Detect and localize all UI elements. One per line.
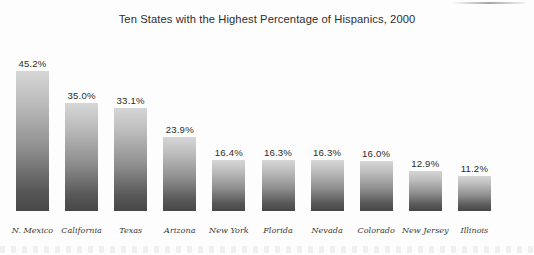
bar-rect[interactable] bbox=[16, 71, 49, 211]
chart-baseline bbox=[0, 211, 534, 212]
bar-rect[interactable] bbox=[360, 161, 393, 211]
bar-rect[interactable] bbox=[65, 103, 98, 212]
bar-value-label: 12.9% bbox=[401, 158, 450, 169]
bar-rect[interactable] bbox=[311, 160, 344, 211]
bar-rect[interactable] bbox=[212, 160, 245, 211]
bar-rect[interactable] bbox=[114, 108, 147, 211]
bar-rect[interactable] bbox=[163, 137, 196, 211]
bar-rect[interactable] bbox=[262, 160, 295, 211]
bar-value-label: 16.4% bbox=[204, 147, 253, 158]
bar-category-label: Illinois bbox=[445, 225, 504, 235]
bar-value-label: 23.9% bbox=[155, 124, 204, 135]
bar-value-label: 45.2% bbox=[8, 58, 57, 69]
bar-value-label: 16.3% bbox=[303, 147, 352, 158]
bar-rect[interactable] bbox=[458, 176, 491, 211]
bar-value-label: 35.0% bbox=[57, 90, 106, 101]
bar-chart-plot-area: 45.2%N. Mexico35.0%California33.1%Texas2… bbox=[0, 0, 534, 255]
bar-value-label: 16.3% bbox=[254, 147, 303, 158]
bar-value-label: 11.2% bbox=[450, 163, 499, 174]
scan-artifact-text-bleed-icon bbox=[0, 246, 534, 253]
bar-value-label: 16.0% bbox=[352, 148, 401, 159]
bar-value-label: 33.1% bbox=[106, 95, 155, 106]
bar-rect[interactable] bbox=[409, 171, 442, 211]
chart-page: Ten States with the Highest Percentage o… bbox=[0, 0, 534, 255]
